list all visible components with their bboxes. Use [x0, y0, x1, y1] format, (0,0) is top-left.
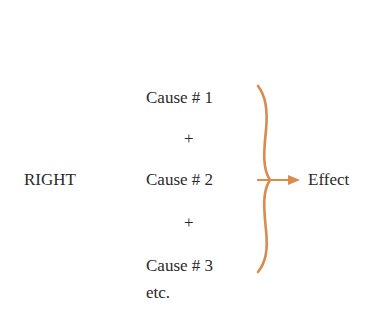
arrow-head-icon: [288, 175, 300, 185]
brace-arrow-graphic: [0, 0, 384, 322]
